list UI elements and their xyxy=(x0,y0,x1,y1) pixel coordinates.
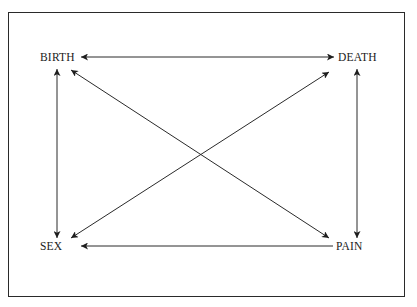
arrows-layer xyxy=(0,0,417,307)
node-death: DEATH xyxy=(338,51,377,63)
node-birth: BIRTH xyxy=(40,51,75,63)
node-sex: SEX xyxy=(40,240,62,252)
node-pain: PAIN xyxy=(336,240,363,252)
